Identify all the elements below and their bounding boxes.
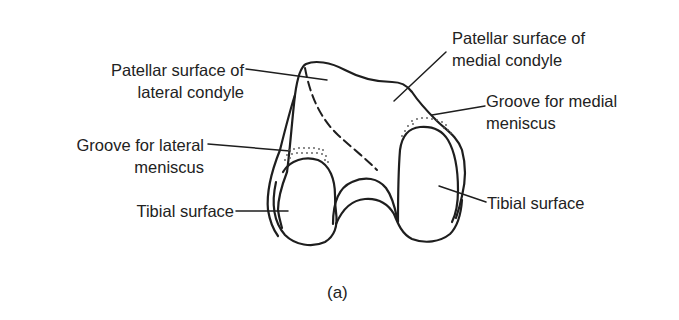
lateral-condyle-bottom [274, 182, 337, 245]
label-groove-lateral-line2: meniscus [40, 156, 204, 178]
figure-caption: (a) [327, 283, 348, 303]
leader-patellar-lateral [246, 69, 327, 80]
label-patellar-lateral-line2: lateral condyle [86, 81, 244, 103]
label-patellar-lateral-line1: Patellar surface of [86, 59, 244, 81]
label-tibial-left-text: Tibial surface [100, 200, 234, 222]
label-groove-medial-line2: meniscus [486, 112, 617, 134]
leader-patellar-medial [394, 52, 446, 101]
label-patellar-surface-medial-condyle: Patellar surface of medial condyle [452, 27, 585, 71]
label-patellar-medial-line2: medial condyle [452, 49, 585, 71]
label-patellar-surface-lateral-condyle: Patellar surface of lateral condyle [86, 59, 244, 103]
leader-groove-medial [432, 106, 485, 115]
label-tibial-surface-right: Tibial surface [487, 192, 585, 214]
label-groove-lateral-line1: Groove for lateral [40, 134, 204, 156]
patellar-surface-outline [287, 62, 465, 218]
label-tibial-surface-left: Tibial surface [100, 200, 234, 222]
stipple-groove-lateral [284, 147, 329, 163]
label-groove-medial-meniscus: Groove for medial meniscus [486, 90, 617, 134]
patellar-ridge-dashed-line [305, 68, 377, 170]
lateral-condyle-side-contour [268, 95, 295, 236]
intercondylar-notch-upper-arch [333, 179, 397, 224]
lateral-condyle-inner-contour [278, 172, 287, 228]
label-tibial-right-text: Tibial surface [487, 192, 585, 214]
lateral-tibial-surface-outline [283, 159, 335, 196]
label-patellar-medial-line1: Patellar surface of [452, 27, 585, 49]
femur-distal-end-diagram: Patellar surface of lateral condyle Pate… [0, 0, 679, 320]
medial-tibial-surface-outline [398, 127, 458, 222]
leader-groove-lateral [208, 144, 290, 151]
label-groove-lateral-meniscus: Groove for lateral meniscus [40, 134, 204, 178]
label-groove-medial-line1: Groove for medial [486, 90, 617, 112]
